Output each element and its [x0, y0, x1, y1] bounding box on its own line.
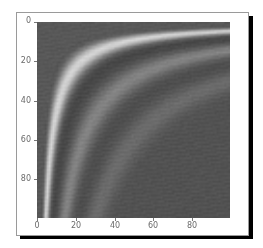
x-tick-label-0: 0 [27, 222, 47, 230]
y-tick-mark-80 [34, 179, 37, 180]
y-tick-label-0: 0 [11, 17, 31, 25]
heatmap-plot-area [37, 22, 230, 218]
y-tick-label-60: 60 [11, 136, 31, 144]
y-tick-label-20: 20 [11, 57, 31, 65]
y-tick-mark-60 [34, 140, 37, 141]
y-tick-mark-0 [34, 22, 37, 23]
x-tick-label-20: 20 [66, 222, 86, 230]
y-tick-label-80: 80 [11, 175, 31, 183]
x-tick-label-60: 60 [143, 222, 163, 230]
heatmap-image [37, 22, 230, 218]
y-tick-mark-40 [34, 101, 37, 102]
y-tick-mark-20 [34, 61, 37, 62]
y-tick-label-40: 40 [11, 97, 31, 105]
x-tick-label-40: 40 [105, 222, 125, 230]
x-tick-label-80: 80 [182, 222, 202, 230]
